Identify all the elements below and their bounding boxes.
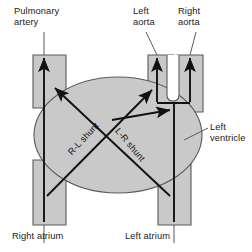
leader-left-aorta: [146, 32, 157, 55]
aorta-gap: [167, 55, 179, 101]
label-right-atrium: Right atrium: [12, 231, 63, 242]
label-left-ventricle: Left ventricle: [210, 122, 246, 144]
chamber-group: [33, 55, 203, 225]
leader-right-aorta: [190, 32, 196, 55]
label-left-atrium: Left atrium: [125, 231, 170, 242]
label-left-aorta: Left aorta: [133, 6, 155, 28]
label-right-aorta: Right aorta: [178, 6, 200, 28]
heart-diagram: Pulmonary artery Left aorta Right aorta …: [0, 0, 252, 252]
label-pulmonary-artery: Pulmonary artery: [14, 6, 59, 28]
